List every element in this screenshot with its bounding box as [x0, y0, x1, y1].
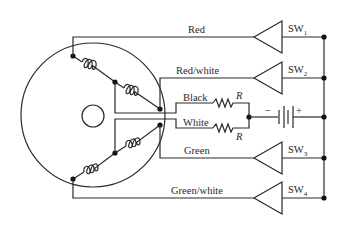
label-sw3: SW3 [288, 144, 308, 158]
wire-green-white [73, 179, 254, 198]
label-resistor-white: R [235, 131, 243, 142]
bus-dot [321, 195, 326, 200]
label-red: Red [188, 24, 206, 35]
label-green-white: Green/white [171, 185, 223, 196]
label-red-white: Red/white [176, 65, 219, 76]
resistor-white [213, 117, 249, 132]
label-white: White [183, 117, 209, 128]
bus-dot [321, 114, 326, 119]
battery-plus: + [296, 105, 302, 116]
resistor-black [213, 99, 249, 117]
stepper-motor-circuit: − + Red Red/white Black R White R Green … [0, 0, 345, 228]
label-black: Black [183, 92, 208, 103]
motor-shaft [82, 105, 104, 127]
label-sw1: SW1 [288, 23, 308, 37]
bus-dot [321, 155, 326, 160]
wire-red [73, 37, 254, 56]
label-sw2: SW2 [288, 64, 308, 78]
label-sw4: SW4 [288, 184, 308, 198]
battery: − + [249, 105, 324, 128]
bus-dot [321, 34, 326, 39]
label-resistor-black: R [235, 90, 243, 101]
battery-minus: − [265, 105, 271, 116]
lower-winding [70, 122, 162, 181]
label-green: Green [184, 145, 210, 156]
upper-winding [70, 53, 162, 111]
bus-dot [321, 75, 326, 80]
